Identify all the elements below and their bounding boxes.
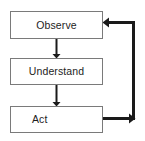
arrowhead-left-icon xyxy=(103,18,110,28)
node-act[interactable]: Act xyxy=(10,106,103,133)
connector-understand-to-act-icon xyxy=(53,85,61,107)
connector-observe-to-understand-icon xyxy=(53,39,61,59)
node-observe-label: Observe xyxy=(36,20,76,31)
node-act-label: Act xyxy=(32,114,47,125)
node-observe[interactable]: Observe xyxy=(10,11,103,39)
node-understand-label: Understand xyxy=(29,66,84,77)
flowchart-diagram: Observe Understand Act xyxy=(0,0,145,141)
node-understand[interactable]: Understand xyxy=(10,58,103,85)
connector-act-to-observe-feedback-icon xyxy=(103,18,136,124)
